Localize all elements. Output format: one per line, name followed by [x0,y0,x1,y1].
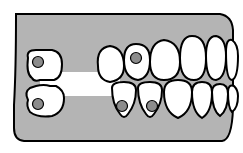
tooth-u1 [98,46,124,82]
jaw-illustration [0,0,243,153]
implant-marker-icon [33,57,44,68]
implant-marker-icon [33,99,44,110]
tooth-u4 [180,36,206,80]
tooth-u-left-molar [28,50,63,81]
tooth-l-left-molar [26,85,64,117]
dental-diagram [0,0,243,153]
tooth-l6 [228,86,238,112]
tooth-u6 [226,40,238,80]
implant-marker-icon [147,101,158,112]
implant-marker-icon [117,101,128,112]
tooth-u5 [206,36,226,80]
tooth-u3 [150,40,180,80]
implant-marker-icon [131,53,142,64]
